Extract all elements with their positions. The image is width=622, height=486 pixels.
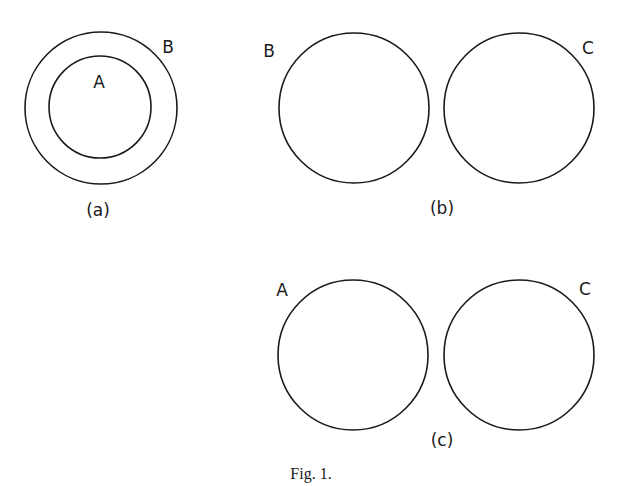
set-b-label: B [162, 37, 174, 57]
panel-a: B A (a) [25, 32, 177, 220]
set-b-circle [279, 33, 429, 183]
set-c-label: C [579, 279, 591, 299]
panel-c: A C (c) [276, 279, 594, 450]
set-a-label: A [276, 280, 288, 300]
set-c-circle [444, 280, 594, 430]
set-a-circle [278, 280, 428, 430]
panel-a-label: (a) [86, 200, 110, 220]
figure-caption: Fig. 1. [290, 465, 331, 483]
panel-b: B C (b) [263, 33, 594, 218]
set-c-label: C [582, 38, 594, 58]
venn-figure: B A (a) B C (b) A C (c) Fig. 1. [0, 0, 622, 486]
set-a-label: A [93, 72, 105, 92]
set-b-circle [25, 32, 177, 184]
set-c-circle [444, 33, 594, 183]
set-b-label: B [263, 41, 275, 61]
panel-c-label: (c) [431, 430, 454, 450]
panel-b-label: (b) [430, 198, 454, 218]
